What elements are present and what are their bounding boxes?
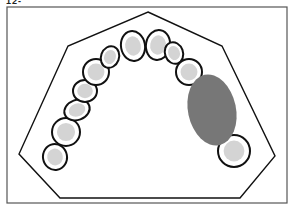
frame-border <box>7 7 287 203</box>
tooth <box>119 29 148 63</box>
tooth <box>52 118 80 146</box>
dental-arch-diagram <box>0 0 293 212</box>
